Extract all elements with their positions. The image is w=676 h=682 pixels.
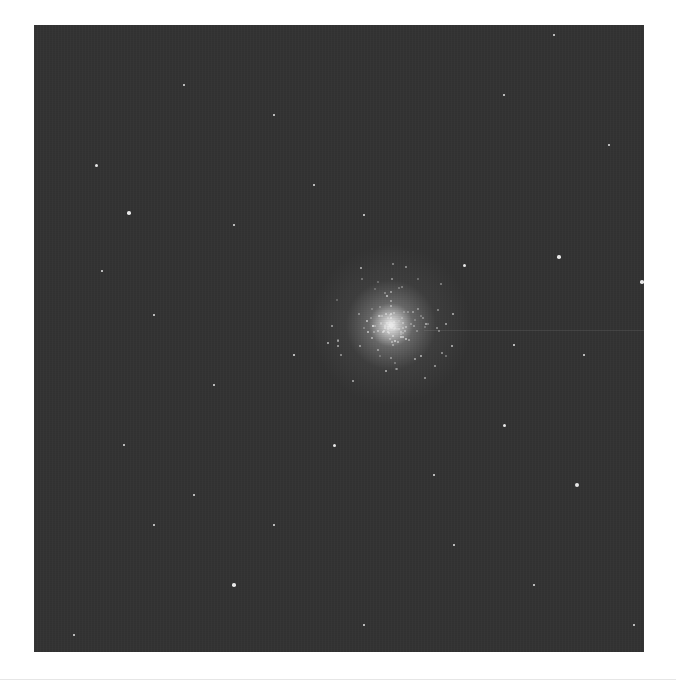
cluster-star bbox=[408, 339, 410, 341]
cluster-star bbox=[390, 300, 392, 302]
cluster-star bbox=[387, 317, 389, 319]
cluster-star bbox=[401, 317, 403, 319]
cluster-star bbox=[427, 323, 429, 325]
cluster-star bbox=[337, 339, 339, 341]
cluster-star bbox=[402, 336, 404, 338]
cluster-star bbox=[391, 325, 393, 327]
cluster-star bbox=[381, 315, 383, 317]
cluster-star bbox=[396, 368, 398, 370]
cluster-star bbox=[400, 333, 402, 335]
star bbox=[127, 211, 131, 215]
star bbox=[95, 164, 98, 167]
cluster-star bbox=[414, 358, 416, 360]
cluster-star bbox=[417, 308, 419, 310]
cluster-star bbox=[392, 344, 394, 346]
cluster-star bbox=[424, 377, 426, 379]
cluster-star bbox=[373, 331, 375, 333]
star bbox=[232, 583, 236, 587]
cluster-star bbox=[361, 278, 363, 280]
cluster-star bbox=[405, 326, 407, 328]
cluster-star bbox=[385, 313, 387, 315]
cluster-star bbox=[393, 328, 395, 330]
cluster-star bbox=[384, 327, 386, 329]
star bbox=[557, 255, 561, 259]
cluster-star bbox=[393, 312, 395, 314]
cluster-star bbox=[424, 326, 426, 328]
divider bbox=[0, 679, 676, 680]
cluster-star bbox=[440, 283, 442, 285]
cluster-star bbox=[402, 322, 404, 324]
cluster-star bbox=[359, 345, 361, 347]
star bbox=[503, 424, 506, 427]
star bbox=[333, 444, 336, 447]
cluster-star bbox=[412, 311, 414, 313]
star bbox=[640, 280, 644, 284]
cluster-star bbox=[398, 320, 400, 322]
star-field-image bbox=[34, 25, 644, 652]
sensor-streak bbox=[424, 330, 644, 331]
cluster-star bbox=[391, 278, 393, 280]
cluster-star bbox=[405, 338, 407, 340]
cluster-star bbox=[389, 338, 391, 340]
cluster-star bbox=[452, 313, 454, 315]
cluster-star bbox=[327, 342, 329, 344]
image-noise bbox=[34, 25, 644, 652]
cluster-star bbox=[451, 345, 453, 347]
cluster-star bbox=[382, 331, 384, 333]
cluster-star bbox=[390, 305, 392, 307]
cluster-star bbox=[377, 349, 379, 351]
cluster-star bbox=[384, 292, 386, 294]
cluster-star bbox=[358, 313, 360, 315]
cluster-star bbox=[371, 337, 373, 339]
cluster-star bbox=[337, 345, 339, 347]
cluster-star bbox=[407, 311, 409, 313]
star bbox=[463, 264, 466, 267]
